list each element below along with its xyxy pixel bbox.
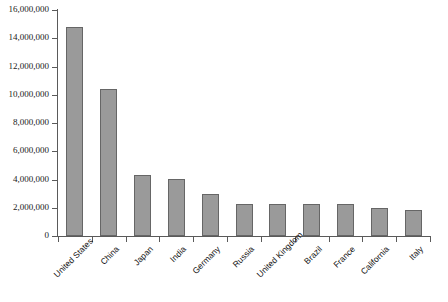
x-axis-tick-label: United States xyxy=(52,244,87,279)
y-axis-tick-label: 6,000,000 xyxy=(13,146,49,155)
y-axis-tick xyxy=(52,67,57,68)
bar xyxy=(337,204,354,236)
x-axis-tick-label: Russia xyxy=(221,244,256,279)
bar xyxy=(134,175,151,236)
y-axis-tick-label: 4,000,000 xyxy=(13,175,49,184)
y-axis-tick xyxy=(52,180,57,181)
y-axis-tick-label: 14,000,000 xyxy=(9,33,50,42)
y-axis-tick-label: 12,000,000 xyxy=(9,62,50,71)
bar-chart: 02,000,0004,000,0006,000,0008,000,00010,… xyxy=(0,0,448,302)
x-axis-line xyxy=(57,236,431,237)
y-axis-tick xyxy=(52,123,57,124)
bar xyxy=(269,204,286,236)
x-axis-tick-label: Japan xyxy=(119,244,154,279)
x-axis-tick-label: United Kingdom xyxy=(255,244,290,279)
bar xyxy=(100,89,117,236)
x-axis-tick xyxy=(126,237,127,242)
x-axis-tick xyxy=(396,237,397,242)
x-axis-tick-label: Brazil xyxy=(288,244,323,279)
y-axis-tick-label: 10,000,000 xyxy=(9,90,50,99)
x-axis-tick xyxy=(193,237,194,242)
x-axis-tick-label: France xyxy=(322,244,357,279)
bar xyxy=(405,210,422,236)
x-axis-tick-label: California xyxy=(356,244,391,279)
x-axis-tick xyxy=(430,237,431,242)
y-axis-tick-label: 2,000,000 xyxy=(13,203,49,212)
y-axis-tick xyxy=(52,95,57,96)
y-axis-tick-label: 0 xyxy=(45,231,50,240)
bar xyxy=(371,208,388,236)
y-axis-tick xyxy=(52,151,57,152)
x-axis-tick xyxy=(159,237,160,242)
x-axis-tick xyxy=(261,237,262,242)
x-axis-tick xyxy=(329,237,330,242)
y-axis-tick xyxy=(52,236,57,237)
x-axis-tick-label: Italy xyxy=(390,244,425,279)
bar xyxy=(236,204,253,236)
x-axis-tick xyxy=(58,237,59,242)
y-axis-tick xyxy=(52,38,57,39)
x-axis-tick xyxy=(227,237,228,242)
x-axis-tick xyxy=(362,237,363,242)
y-axis-tick xyxy=(52,10,57,11)
x-axis-tick-label: India xyxy=(153,244,188,279)
bar xyxy=(303,204,320,236)
bar xyxy=(202,194,219,236)
x-axis-tick-label: China xyxy=(85,244,120,279)
y-axis-tick-label: 8,000,000 xyxy=(13,118,49,127)
bar xyxy=(66,27,83,236)
plot-area xyxy=(58,10,430,236)
x-axis-tick-label: Germany xyxy=(187,244,222,279)
bar xyxy=(168,179,185,236)
y-axis-tick-label: 16,000,000 xyxy=(9,5,50,14)
y-axis-tick xyxy=(52,208,57,209)
